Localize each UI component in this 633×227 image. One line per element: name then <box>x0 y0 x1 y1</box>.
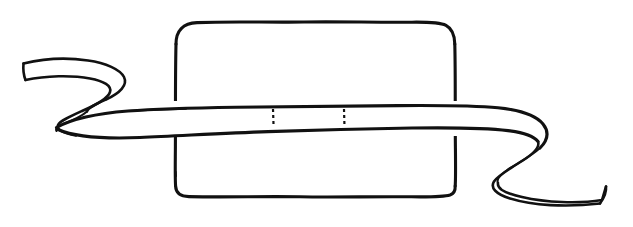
ribbon-left-tail-upper-edge <box>24 59 126 112</box>
box-bottom-edge <box>176 186 456 197</box>
illustration-canvas <box>0 0 633 227</box>
ribbon <box>22 43 606 205</box>
ribbon-tick-mark-1 <box>273 109 274 124</box>
line-drawing-svg <box>0 0 633 227</box>
box-top-edge <box>176 22 455 44</box>
ribbon-left-tip <box>23 64 25 81</box>
